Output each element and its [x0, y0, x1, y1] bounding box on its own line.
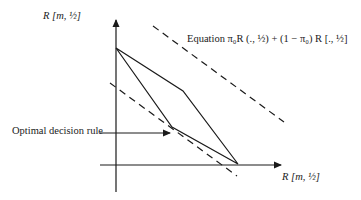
- x-axis-label: R [m, ½]: [282, 172, 320, 183]
- equation-line-lower: [110, 83, 237, 176]
- y-axis-label: R [m, ½]: [43, 11, 81, 22]
- decision-diagram: [0, 0, 361, 200]
- risk-set-polygon: [116, 48, 238, 164]
- equation-label: Equation π₀R (., ½) + (1 − π₀) R [., ½]: [187, 34, 347, 45]
- optimal-decision-label: Optimal decision rule: [12, 126, 103, 137]
